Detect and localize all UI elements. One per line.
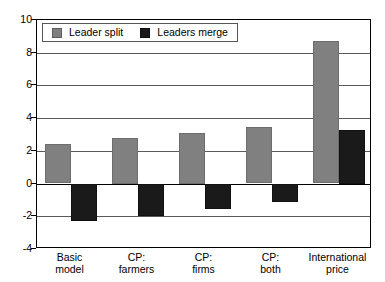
y-tick-label: 6 [0, 79, 32, 89]
bar [272, 184, 298, 202]
bar [179, 133, 205, 184]
bar [339, 130, 365, 184]
x-tick-label: CP: both [237, 252, 304, 275]
y-tick-label: -2 [0, 210, 32, 220]
bar [246, 127, 272, 183]
y-tick-label: 8 [0, 47, 32, 57]
legend-swatch-merge [140, 28, 150, 38]
bar-chart: 1086420-2-4 Leader splitLeaders merge Ba… [0, 0, 385, 282]
legend-item: Leaders merge [140, 27, 228, 38]
y-tick-label: -4 [0, 243, 32, 253]
y-tick-mark [31, 248, 36, 249]
bar [138, 184, 164, 216]
x-tick-label: International price [304, 252, 371, 275]
bar [313, 41, 339, 183]
y-tick-label: 2 [0, 145, 32, 155]
bar [71, 184, 97, 221]
legend-swatch-split [52, 28, 62, 38]
y-tick-label: 4 [0, 112, 32, 122]
plot-area [36, 19, 371, 248]
bar [45, 144, 71, 183]
legend-label: Leaders merge [157, 27, 228, 38]
y-tick-label: 10 [0, 14, 32, 24]
legend-label: Leader split [69, 27, 123, 38]
legend-item: Leader split [52, 27, 123, 38]
x-tick-label: Basic model [36, 252, 103, 275]
x-tick-label: CP: farmers [103, 252, 170, 275]
y-tick-label: 0 [0, 178, 32, 188]
chart-legend: Leader splitLeaders merge [42, 23, 238, 42]
bar [205, 184, 231, 209]
bar [112, 138, 138, 184]
x-tick-label: CP: firms [170, 252, 237, 275]
